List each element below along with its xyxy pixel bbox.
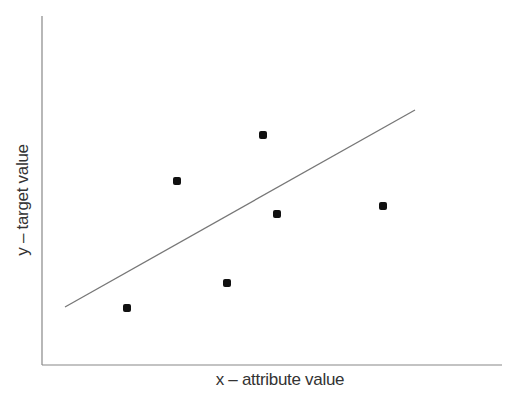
data-point [273,210,281,218]
data-points [123,131,387,312]
data-point [259,131,267,139]
y-axis-label: y – target value [13,125,33,275]
data-point [123,304,131,312]
data-point [173,177,181,185]
scatter-plot [0,0,527,409]
regression-line [65,110,415,307]
x-axis-label: x – attribute value [150,370,410,390]
data-point [379,202,387,210]
data-point [223,279,231,287]
